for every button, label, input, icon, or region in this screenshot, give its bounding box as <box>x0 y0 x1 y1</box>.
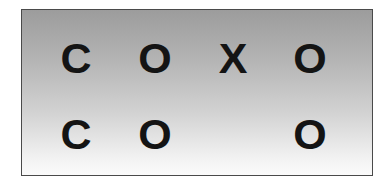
grid-cell-r2-c4: O <box>285 112 335 156</box>
grid-cell-r2-c2: O <box>130 112 180 156</box>
figure-canvas: C O X O C O O <box>0 0 392 187</box>
symbol-grid-panel: C O X O C O O <box>21 9 373 176</box>
grid-cell-r2-c1: C <box>51 112 101 156</box>
grid-cell-r1-c1: C <box>51 36 101 80</box>
grid-cell-r1-c4: O <box>285 36 335 80</box>
grid-cell-r2-c3 <box>208 112 258 156</box>
grid-cell-r1-c2: O <box>130 36 180 80</box>
grid-cell-r1-c3: X <box>208 36 258 80</box>
